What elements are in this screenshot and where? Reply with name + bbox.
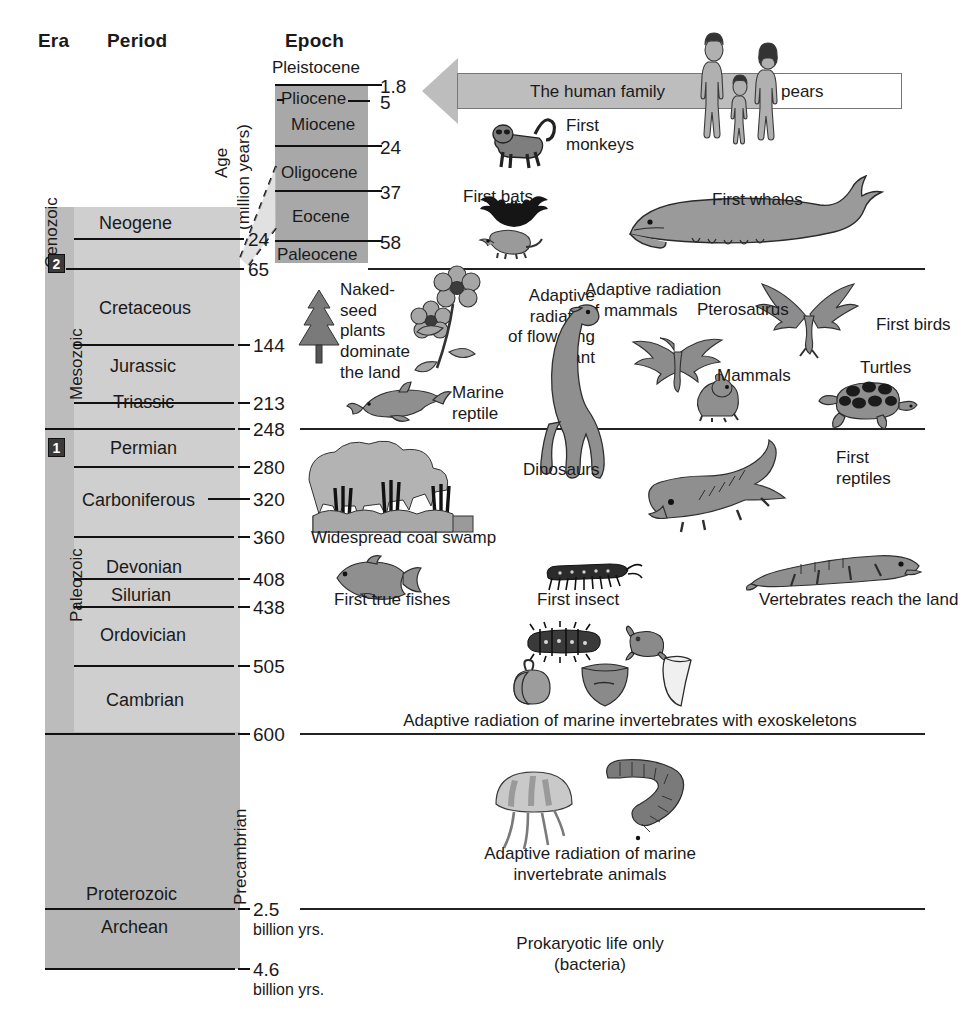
epoch-age-5: 5 [380, 92, 391, 113]
period-rule-213 [74, 402, 234, 404]
column-header-period: Period [107, 30, 167, 51]
caption-marine-invertebrates: Adaptive radiation of marine invertebrat… [440, 844, 740, 885]
era-label-mesozoic: Mesozoic [67, 328, 86, 400]
period-age-408: 408 [253, 569, 285, 590]
period-tick-320 [208, 498, 250, 500]
epoch-label-paleocene: Paleocene [277, 245, 357, 264]
period-tick-144 [238, 344, 250, 346]
caption-pterosaurus: Pterosaurus [697, 300, 789, 319]
epoch-tick-5 [348, 100, 370, 102]
period-rule-505 [74, 665, 234, 667]
caption-marine-reptile: Marine reptile [452, 383, 504, 424]
banner-text-left: The human family [530, 82, 665, 101]
flowering-plant-icon [413, 268, 493, 376]
period-rule-408 [74, 578, 234, 580]
period-age-144: 144 [253, 335, 285, 356]
period-column-block [74, 207, 240, 732]
period-tick-248 [238, 428, 250, 430]
caption-mammals: Mammals [717, 366, 791, 385]
human-family-figures-icon [690, 32, 800, 157]
period-age-65: 65 [248, 259, 269, 280]
period-rule-600 [45, 733, 235, 735]
caption-turtles: Turtles [860, 358, 911, 377]
period-age-213: 213 [253, 393, 285, 414]
period-tick-280 [238, 466, 250, 468]
caption-prokaryotic-life: Prokaryotic life only (bacteria) [440, 934, 740, 975]
era-label-precambrian: Precambrian [231, 809, 250, 905]
period-rule-144 [74, 344, 234, 346]
period-age-320: 320 [253, 489, 285, 510]
period-label-ordovician: Ordovician [100, 625, 186, 645]
epoch-rule-1-8 [275, 84, 370, 86]
period-label-devonian: Devonian [106, 557, 182, 577]
period-tick-213 [238, 402, 250, 404]
deep-tick-2-5 [238, 908, 250, 910]
column-header-era: Era [38, 30, 69, 51]
caption-vertebrates-reach-land: Vertebrates reach the land [759, 590, 958, 609]
age-axis-label-line1: Age [212, 148, 231, 178]
period-age-24: 24 [248, 229, 269, 250]
epoch-rule-24 [275, 145, 370, 147]
era-label-paleozoic: Paleozoic [67, 548, 86, 622]
period-rule-248 [45, 428, 235, 430]
pliocene-dash [277, 99, 284, 101]
period-label-cretaceous: Cretaceous [99, 298, 191, 318]
caption-first-bats: First bats [463, 187, 533, 206]
era-badge-1: 1 [48, 438, 65, 457]
period-label-silurian: Silurian [111, 585, 171, 605]
period-label-jurassic: Jurassic [110, 356, 176, 376]
epoch-age-58: 58 [380, 232, 401, 253]
bivalve-icon [578, 662, 632, 708]
deep-tick-4-6 [238, 968, 250, 970]
deep-age-4-6: 4.6 [253, 959, 279, 980]
epoch-rule-58 [275, 240, 370, 242]
period-rule-360 [74, 536, 234, 538]
epoch-label-pleistocene: Pleistocene [272, 58, 360, 77]
nautiloid-icon [659, 654, 699, 710]
caption-first-monkeys: First monkeys [566, 116, 634, 154]
epoch-label-miocene: Miocene [291, 115, 355, 134]
tetrapod-icon [745, 544, 925, 596]
period-label-archean: Archean [101, 917, 168, 937]
turtle-icon [815, 375, 921, 431]
jellyfish-icon [490, 766, 582, 852]
period-label-neogene: Neogene [99, 213, 172, 233]
epoch-rule-37 [275, 190, 370, 192]
period-tick-438 [238, 606, 250, 608]
deep-rule-2-5 [45, 908, 235, 910]
caption-first-true-fishes: First true fishes [334, 590, 450, 609]
first-reptile-icon [645, 440, 835, 544]
period-label-proterozoic: Proterozoic [86, 884, 177, 904]
caption-exoskeletons: Adaptive radiation of marine invertebrat… [335, 711, 925, 730]
caption-first-whales: First whales [712, 190, 803, 209]
epoch-age-37: 37 [380, 182, 401, 203]
period-label-cambrian: Cambrian [106, 690, 184, 710]
human-family-arrow-head [422, 58, 458, 124]
conifer-tree-icon [296, 288, 342, 366]
deep-age-4-6-unit: billion yrs. [253, 981, 324, 999]
content-rule-2-5 [300, 908, 925, 910]
period-label-carboniferous: Carboniferous [82, 490, 195, 510]
epoch-label-eocene: Eocene [292, 207, 350, 226]
period-age-248: 248 [253, 419, 285, 440]
epoch-age-24: 24 [380, 137, 401, 158]
period-age-280: 280 [253, 457, 285, 478]
period-rule-280 [74, 466, 234, 468]
caption-first-birds: First birds [876, 315, 951, 334]
column-header-epoch: Epoch [285, 30, 344, 51]
worm-icon [596, 758, 688, 854]
period-age-438: 438 [253, 597, 285, 618]
period-tick-600 [238, 733, 250, 735]
deep-age-2-5: 2.5 [253, 899, 279, 920]
monkey-icon [487, 106, 559, 172]
geologic-time-scale-figure: Era Period Epoch Age (million years) Cen… [0, 0, 976, 1014]
period-rule-65 [66, 268, 244, 270]
deep-rule-4-6 [45, 968, 235, 970]
caption-first-insect: First insect [537, 590, 619, 609]
caption-first-reptiles: First reptiles [836, 448, 891, 489]
whale-icon [622, 172, 890, 264]
caption-naked-seed-plants: Naked- seed plants dominate the land [340, 280, 410, 384]
first-insect-icon [538, 560, 644, 594]
period-age-505: 505 [253, 656, 285, 677]
period-tick-505 [238, 665, 250, 667]
